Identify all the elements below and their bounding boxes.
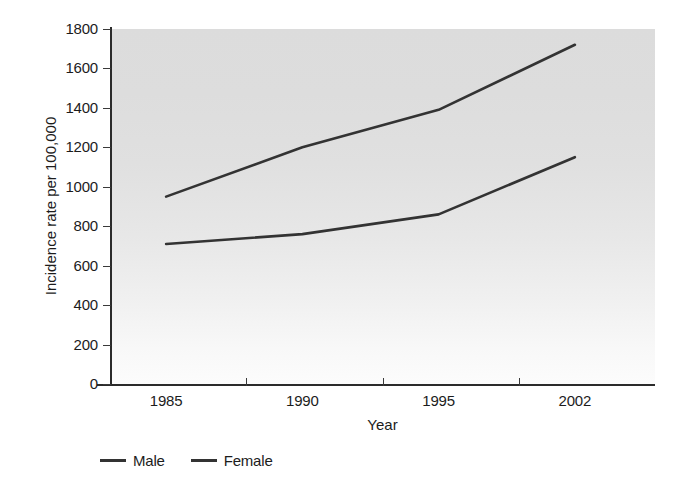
y-axis-tick-label: 1800 xyxy=(50,21,98,36)
y-axis-tick xyxy=(103,29,111,30)
legend-item-female[interactable]: Female xyxy=(191,452,273,469)
y-axis-tick xyxy=(103,68,111,69)
x-axis-title: Year xyxy=(110,416,655,433)
legend-label: Female xyxy=(224,452,273,469)
legend-item-male[interactable]: Male xyxy=(100,452,165,469)
x-axis-line xyxy=(97,384,655,386)
x-axis-category-label: 1985 xyxy=(121,392,211,409)
legend-line-swatch-icon xyxy=(100,459,126,462)
x-axis-category-label: 1995 xyxy=(394,392,484,409)
x-axis-category-label: 2002 xyxy=(530,392,620,409)
x-axis-tick xyxy=(246,378,247,386)
y-axis-tick xyxy=(103,384,111,385)
y-axis-tick xyxy=(103,226,111,227)
y-axis-line xyxy=(110,27,112,386)
y-axis-tick xyxy=(103,187,111,188)
y-axis-tick-label: 0 xyxy=(50,376,98,391)
legend-line-swatch-icon xyxy=(191,459,217,462)
x-axis-category-label: 1990 xyxy=(257,392,347,409)
x-axis-tick xyxy=(383,378,384,386)
y-axis-tick xyxy=(103,108,111,109)
y-axis-tick xyxy=(103,147,111,148)
y-axis-tick xyxy=(103,345,111,346)
plot-area xyxy=(110,29,655,384)
legend-label: Male xyxy=(133,452,165,469)
line-chart: 020040060080010001200140016001800 198519… xyxy=(0,0,685,488)
y-axis-title: Incidence rate per 100,000 xyxy=(43,56,59,356)
x-axis-tick xyxy=(519,378,520,386)
y-axis-tick xyxy=(103,266,111,267)
chart-legend: MaleFemale xyxy=(100,452,273,469)
y-axis-tick xyxy=(103,305,111,306)
